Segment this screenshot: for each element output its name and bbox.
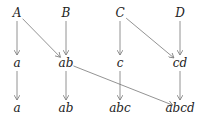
node-abc2: abc — [109, 102, 131, 114]
node-c1: c — [117, 57, 124, 69]
node-a2: a — [13, 102, 20, 114]
node-D: D — [175, 7, 185, 19]
arrow-C-cd1 — [126, 18, 174, 58]
node-cd1: cd — [173, 57, 187, 69]
arrow-ab1-abcd2 — [73, 66, 172, 105]
node-ab1: ab — [59, 57, 74, 69]
node-a1: a — [13, 57, 20, 69]
node-A: A — [13, 7, 22, 19]
arrow-A-ab1 — [23, 19, 61, 58]
node-abcd2: abcd — [165, 102, 194, 114]
node-C: C — [115, 7, 124, 19]
node-ab2: ab — [59, 102, 74, 114]
node-B: B — [62, 7, 71, 19]
